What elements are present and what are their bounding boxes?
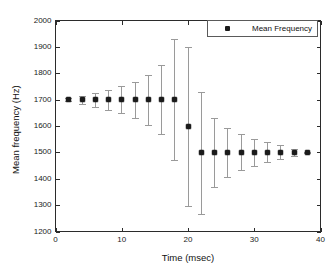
x-tick-mark (56, 228, 57, 232)
y-tick-mark (56, 232, 60, 233)
data-point-errorbar (301, 151, 313, 154)
y-tick-label: 1300 (21, 201, 52, 209)
errorbar-cap-lower (105, 110, 112, 111)
y-tick-mark (56, 205, 60, 206)
data-point-marker (133, 97, 138, 102)
y-tick-mark (317, 73, 321, 74)
y-tick-label: 1900 (21, 43, 52, 51)
errorbar-cap-upper (264, 142, 271, 143)
x-tick-label: 40 (306, 236, 336, 244)
data-point-errorbar (209, 117, 221, 188)
data-point-errorbar (195, 91, 207, 215)
x-tick-mark (321, 21, 322, 25)
errorbar-cap-lower (198, 214, 205, 215)
chart-figure: 120013001400150016001700180019002000 010… (0, 0, 336, 279)
data-point-errorbar (235, 133, 247, 171)
x-tick-label: 30 (239, 236, 269, 244)
x-tick-mark (56, 21, 57, 25)
data-point-marker (80, 97, 85, 102)
data-point-marker (119, 97, 124, 102)
data-point-marker (292, 150, 297, 155)
data-point-errorbar (103, 89, 115, 111)
x-tick-mark (321, 228, 322, 232)
y-tick-label: 1500 (21, 148, 52, 156)
data-point-errorbar (248, 138, 260, 167)
data-point-errorbar (156, 64, 168, 136)
errorbar-cap-upper (224, 128, 231, 129)
y-tick-mark (56, 47, 60, 48)
x-tick-mark (122, 21, 123, 25)
errorbar-cap-upper (132, 82, 139, 83)
y-tick-label: 1600 (21, 122, 52, 130)
y-axis-title: Mean frequency (Hz) (10, 85, 21, 174)
data-point-marker (225, 150, 230, 155)
x-tick-mark (188, 21, 189, 25)
errorbar-cap-upper (198, 92, 205, 93)
data-point-marker (66, 97, 71, 102)
data-point-errorbar (288, 148, 300, 157)
y-tick-mark (317, 205, 321, 206)
errorbar-cap-upper (185, 47, 192, 48)
errorbar-cap-upper (251, 139, 258, 140)
errorbar-cap-lower (118, 113, 125, 114)
data-point-marker (186, 124, 191, 129)
data-point-errorbar (142, 74, 154, 126)
data-point-marker (212, 150, 217, 155)
errorbar-cap-lower (145, 125, 152, 126)
y-tick-mark (317, 179, 321, 180)
errorbar-cap-lower (291, 156, 298, 157)
errorbar-cap-upper (171, 39, 178, 40)
errorbar-cap-lower (158, 134, 165, 135)
data-point-errorbar (76, 95, 88, 105)
data-point-marker (146, 97, 151, 102)
y-tick-label: 1200 (21, 228, 52, 236)
data-point-marker (199, 150, 204, 155)
data-point-marker (278, 150, 283, 155)
x-tick-label: 20 (173, 236, 203, 244)
data-point-errorbar (275, 144, 287, 160)
data-point-errorbar (169, 38, 181, 161)
y-tick-mark (56, 73, 60, 74)
y-tick-mark (56, 126, 60, 127)
errorbar-cap-upper (105, 90, 112, 91)
y-tick-mark (56, 179, 60, 180)
errorbar-cap-upper (238, 134, 245, 135)
errorbar-cap-lower (79, 104, 86, 105)
x-tick-mark (254, 228, 255, 232)
data-point-errorbar (262, 141, 274, 163)
y-tick-label: 1400 (21, 175, 52, 183)
data-point-marker (106, 97, 111, 102)
errorbar-cap-lower (211, 187, 218, 188)
errorbar-cap-lower (132, 118, 139, 119)
y-tick-mark (56, 100, 60, 101)
x-tick-mark (188, 228, 189, 232)
data-point-errorbar (116, 85, 128, 113)
errorbar-cap-lower (171, 160, 178, 161)
errorbar-cap-upper (92, 93, 99, 94)
data-point-marker (239, 150, 244, 155)
errorbar-cap-upper (211, 118, 218, 119)
x-axis-title: Time (msec) (56, 252, 321, 263)
data-point-marker (172, 97, 177, 102)
errorbar-cap-lower (264, 162, 271, 163)
y-tick-mark (317, 152, 321, 153)
data-point-errorbar (89, 92, 101, 109)
y-tick-mark (317, 47, 321, 48)
y-tick-mark (317, 232, 321, 233)
data-point-marker (159, 97, 164, 102)
data-point-errorbar (182, 46, 194, 207)
data-point-errorbar (222, 127, 234, 178)
errorbar-cap-lower (238, 170, 245, 171)
x-tick-label: 10 (107, 236, 137, 244)
errorbar-cap-lower (277, 159, 284, 160)
x-tick-mark (122, 228, 123, 232)
y-tick-mark (317, 100, 321, 101)
data-point-errorbar (129, 81, 141, 119)
errorbar-cap-lower (185, 206, 192, 207)
y-tick-label: 2000 (21, 17, 52, 25)
data-point-marker (93, 97, 98, 102)
data-point-marker (305, 150, 310, 155)
errorbar-cap-upper (277, 145, 284, 146)
legend-label: Mean Frequency (252, 24, 312, 33)
legend-marker-icon (225, 26, 230, 31)
